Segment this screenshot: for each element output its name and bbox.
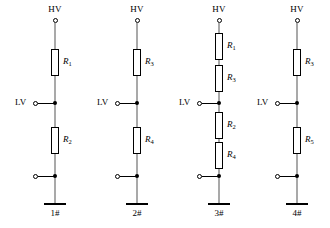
resistor-label: R4	[227, 149, 236, 159]
resistor-R3	[133, 49, 141, 76]
resistor-R5	[293, 127, 301, 154]
resistor-subscript: 4	[233, 153, 236, 160]
lv-junction-dot	[217, 101, 221, 105]
circuit-name-label: 2#	[133, 208, 142, 218]
resistor-subscript: 3	[311, 60, 314, 67]
resistor-R1	[215, 33, 223, 60]
resistor-subscript: 4	[151, 138, 154, 145]
lv-label: LV	[257, 97, 269, 107]
lv-junction-dot	[53, 101, 57, 105]
hv-label: HV	[130, 4, 143, 14]
ground-icon	[44, 203, 66, 205]
resistor-symbol: R	[145, 56, 151, 66]
resistor-label: R3	[145, 56, 154, 66]
resistor-symbol: R	[227, 149, 233, 159]
resistor-R3	[293, 49, 301, 76]
resistor-symbol: R	[227, 119, 233, 129]
resistor-label: R2	[63, 134, 72, 144]
bottom-junction-dot	[217, 174, 221, 178]
lv-junction-dot	[135, 101, 139, 105]
hv-label: HV	[48, 4, 61, 14]
resistor-R1	[51, 49, 59, 76]
circuit-name-label: 1#	[51, 208, 60, 218]
resistor-subscript: 2	[233, 123, 236, 130]
lv-label: LV	[15, 97, 27, 107]
resistor-R4	[215, 142, 223, 169]
resistor-subscript: 2	[69, 138, 72, 145]
circuit-4: HVR3R5LV4#	[256, 0, 330, 228]
resistor-R2	[215, 112, 223, 139]
resistor-subscript: 3	[151, 60, 154, 67]
resistor-R3	[215, 65, 223, 92]
resistor-label: R3	[305, 56, 314, 66]
circuit-diagram: HVR1R2LV1#HVR3R4LV2#HVR1R3R2R4LV3#HVR3R5…	[0, 0, 330, 228]
resistor-symbol: R	[227, 72, 233, 82]
ground-icon	[208, 203, 230, 205]
resistor-symbol: R	[63, 134, 69, 144]
lv-junction-dot	[295, 101, 299, 105]
resistor-symbol: R	[305, 134, 311, 144]
bottom-junction-dot	[135, 174, 139, 178]
resistor-subscript: 1	[69, 60, 72, 67]
hv-label: HV	[212, 4, 225, 14]
resistor-subscript: 3	[233, 76, 236, 83]
resistor-R4	[133, 127, 141, 154]
resistor-subscript: 1	[233, 44, 236, 51]
circuit-name-label: 3#	[215, 208, 224, 218]
resistor-symbol: R	[145, 134, 151, 144]
resistor-label: R1	[63, 56, 72, 66]
resistor-symbol: R	[305, 56, 311, 66]
circuit-3: HVR1R3R2R4LV3#	[178, 0, 260, 228]
circuit-1: HVR1R2LV1#	[14, 0, 96, 228]
resistor-label: R5	[305, 134, 314, 144]
resistor-label: R1	[227, 40, 236, 50]
hv-label: HV	[290, 4, 303, 14]
ground-icon	[286, 203, 308, 205]
resistor-subscript: 5	[311, 138, 314, 145]
lv-label: LV	[97, 97, 109, 107]
bottom-junction-dot	[295, 174, 299, 178]
bottom-junction-dot	[53, 174, 57, 178]
resistor-label: R3	[227, 72, 236, 82]
resistor-label: R4	[145, 134, 154, 144]
resistor-label: R2	[227, 119, 236, 129]
resistor-symbol: R	[63, 56, 69, 66]
resistor-R2	[51, 127, 59, 154]
circuit-2: HVR3R4LV2#	[96, 0, 178, 228]
circuit-name-label: 4#	[293, 208, 302, 218]
ground-icon	[126, 203, 148, 205]
lv-label: LV	[179, 97, 191, 107]
resistor-symbol: R	[227, 40, 233, 50]
